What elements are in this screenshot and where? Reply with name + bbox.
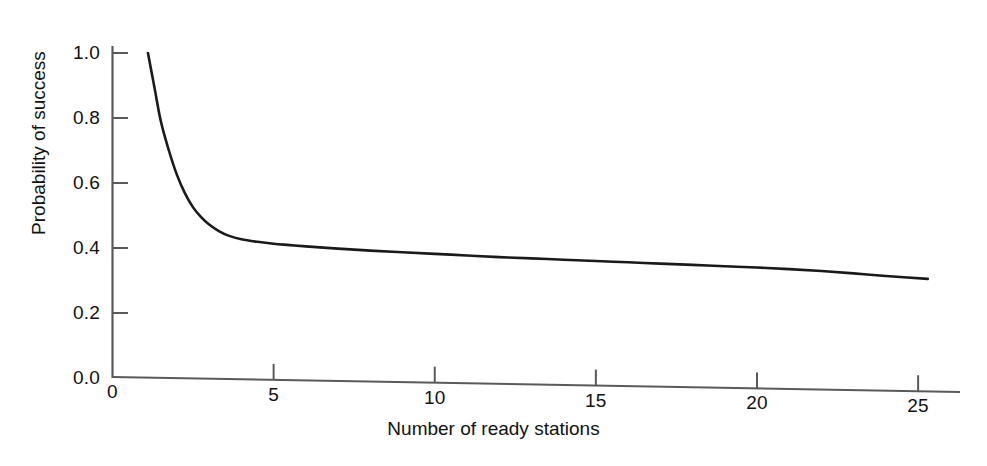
x-tick-label: 15	[566, 390, 626, 412]
x-tick-label: 0	[83, 381, 143, 403]
x-tick-label: 20	[727, 392, 787, 414]
y-axis-title-container: Probability of success	[28, 23, 58, 263]
x-tick-label: 5	[244, 384, 304, 406]
x-tick-label: 10	[405, 387, 465, 409]
x-axis-line	[113, 377, 961, 392]
y-axis-ticks	[113, 53, 129, 313]
y-tick-label: 0.2	[40, 302, 100, 324]
data-series-line	[148, 53, 928, 279]
y-axis-title: Probability of success	[28, 23, 50, 263]
plot-area	[0, 0, 987, 466]
chart-figure: 0.00.20.40.60.81.0 0510152025 Number of …	[0, 0, 987, 466]
x-tick-label: 25	[888, 395, 948, 417]
x-axis-title: Number of ready stations	[0, 418, 987, 440]
x-axis-ticks	[274, 364, 918, 391]
